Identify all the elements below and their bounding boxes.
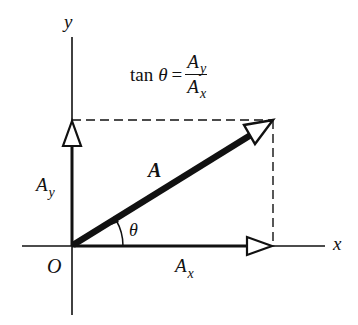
vector-a-label: A [148,160,161,180]
ay-component-label: Ay [36,175,54,194]
x-axis-label: x [333,234,341,253]
ay-sub: y [49,185,55,200]
y-axis-label: y [64,12,72,31]
denominator-sub: x [200,86,206,101]
ax-arrowhead-icon [247,237,272,255]
origin-label: O [47,256,61,276]
formula-variable: θ [158,64,167,86]
ax-base: A [175,255,187,276]
formula-numerator: Ay [185,52,207,72]
vector-a-shaft [73,133,254,245]
formula-function: tan [130,64,153,86]
tan-theta-formula: tan θ = Ay Ax [130,52,207,97]
ay-arrowhead-icon [63,121,81,146]
ax-component-label: Ax [175,256,193,275]
numerator-base: A [187,51,199,72]
ay-base: A [36,174,48,195]
theta-arc [116,220,123,246]
theta-label: θ [129,221,138,239]
formula-fraction: Ay Ax [185,52,207,97]
formula-equals: = [172,64,183,86]
vector-a-arrowhead-icon [244,120,273,144]
numerator-sub: y [200,61,206,76]
ax-sub: x [188,266,194,281]
denominator-base: A [187,76,199,97]
formula-denominator: Ax [185,77,207,97]
